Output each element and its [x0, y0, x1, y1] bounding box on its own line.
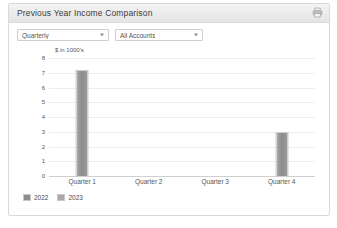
- panel-header: Previous Year Income Comparison: [9, 4, 329, 23]
- y-axis-tick-label: 6: [42, 85, 45, 91]
- income-comparison-panel: Previous Year Income Comparison Quarterl…: [8, 3, 330, 216]
- y-axis-tick-label: 5: [42, 99, 45, 105]
- x-axis-tick-label: Quarter 3: [182, 178, 249, 185]
- filter-toolbar: Quarterly All Accounts: [9, 23, 329, 41]
- x-axis-tick-label: Quarter 1: [49, 178, 116, 185]
- bar-slot: [116, 58, 183, 176]
- page-title: Previous Year Income Comparison: [9, 8, 153, 18]
- income-bar-chart: $ in 1000's 012345678 Quarter 1Quarter 2…: [15, 47, 319, 197]
- chevron-down-icon: [100, 34, 104, 37]
- period-select-value: Quarterly: [18, 32, 49, 39]
- plot-area: 012345678: [49, 58, 315, 176]
- y-axis-tick-label: 1: [42, 158, 45, 164]
- y-axis-tick-label: 8: [42, 55, 45, 61]
- bar[interactable]: [275, 132, 288, 176]
- x-axis-tick-label: Quarter 2: [116, 178, 183, 185]
- legend-label: 2022: [34, 194, 48, 201]
- chevron-down-icon: [194, 34, 198, 37]
- x-axis-tick-label: Quarter 4: [249, 178, 316, 185]
- gridline: [49, 176, 315, 177]
- y-axis-tick-label: 7: [42, 70, 45, 76]
- chart-legend: 20222023: [23, 194, 83, 201]
- legend-swatch: [23, 194, 31, 201]
- y-axis-tick-label: 2: [42, 144, 45, 150]
- period-select[interactable]: Quarterly: [17, 29, 109, 41]
- y-axis-unit-label: $ in 1000's: [55, 47, 84, 53]
- x-axis-labels: Quarter 1Quarter 2Quarter 3Quarter 4: [49, 178, 315, 185]
- print-icon[interactable]: [312, 7, 323, 18]
- legend-item[interactable]: 2023: [57, 194, 82, 201]
- legend-swatch: [57, 194, 65, 201]
- bar-slot: [182, 58, 249, 176]
- y-axis-tick-label: 4: [42, 114, 45, 120]
- y-axis-tick-label: 3: [42, 129, 45, 135]
- account-select-value: All Accounts: [116, 32, 155, 39]
- legend-item[interactable]: 2022: [23, 194, 48, 201]
- bar-slot: [249, 58, 316, 176]
- bar-series: [49, 58, 315, 176]
- account-select[interactable]: All Accounts: [115, 29, 203, 41]
- header-actions: [312, 7, 323, 18]
- y-axis-tick-label: 0: [42, 173, 45, 179]
- bar-slot: [49, 58, 116, 176]
- legend-label: 2023: [68, 194, 82, 201]
- bar[interactable]: [76, 70, 89, 176]
